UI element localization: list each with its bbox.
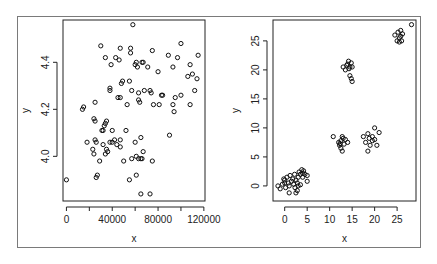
data-point xyxy=(130,88,134,92)
data-point xyxy=(128,51,132,55)
data-point xyxy=(93,100,97,104)
y-tick-label: 15 xyxy=(250,93,261,105)
data-point xyxy=(103,56,107,60)
plot-area xyxy=(273,20,416,201)
x-tick-label: 0 xyxy=(64,214,70,225)
x-tick-label: 40000 xyxy=(98,214,126,225)
data-point xyxy=(91,147,95,151)
data-point xyxy=(179,93,183,97)
scatter-panel-2: 0510152025x0510152025y xyxy=(230,20,416,244)
data-point xyxy=(175,56,179,60)
data-point xyxy=(64,178,68,182)
data-point xyxy=(117,58,121,62)
data-point xyxy=(110,128,114,132)
data-point xyxy=(346,140,350,144)
x-axis: 0510152025x xyxy=(282,207,403,244)
data-point xyxy=(196,53,200,57)
data-point xyxy=(190,72,194,76)
data-point xyxy=(118,145,122,149)
y-tick-label: 20 xyxy=(250,64,261,76)
y-axis: 0510152025y xyxy=(230,35,267,189)
x-tick-label: 5 xyxy=(304,214,310,225)
data-point xyxy=(142,88,146,92)
data-point xyxy=(136,91,140,95)
y-tick-label: 5 xyxy=(250,154,261,160)
data-point xyxy=(186,74,190,78)
x-axis-label: x xyxy=(342,233,347,244)
x-axis-label: x xyxy=(132,233,137,244)
data-point xyxy=(179,41,183,45)
data-points xyxy=(64,23,200,196)
data-point xyxy=(134,173,138,177)
x-tick-label: 20 xyxy=(369,214,381,225)
data-point xyxy=(150,48,154,52)
data-point xyxy=(157,103,161,107)
data-point xyxy=(366,132,370,136)
data-point xyxy=(193,88,197,92)
data-point xyxy=(409,23,413,27)
data-point xyxy=(173,95,177,99)
data-point xyxy=(361,135,365,139)
data-point xyxy=(131,23,135,27)
y-tick-label: 0 xyxy=(250,183,261,189)
data-point xyxy=(124,128,128,132)
y-tick-label: 25 xyxy=(250,35,261,47)
data-point xyxy=(188,63,192,67)
x-tick-label: 80000 xyxy=(144,214,172,225)
data-points xyxy=(276,23,414,195)
data-point xyxy=(171,103,175,107)
data-point xyxy=(375,143,379,147)
data-point xyxy=(122,159,126,163)
data-point xyxy=(101,142,105,146)
data-point xyxy=(133,140,137,144)
y-axis: 4.04.24.4y xyxy=(20,55,57,163)
data-point xyxy=(109,63,113,67)
data-point xyxy=(287,191,291,195)
x-axis: 04000080000120000x xyxy=(64,207,221,244)
data-point xyxy=(130,157,134,161)
data-point xyxy=(127,178,131,182)
data-point xyxy=(139,192,143,196)
y-tick-label: 10 xyxy=(250,122,261,134)
scatter-panel-1: 04000080000120000x4.04.24.4y xyxy=(20,20,221,244)
data-point xyxy=(98,159,102,163)
data-point xyxy=(118,46,122,50)
x-tick-label: 10 xyxy=(324,214,336,225)
data-point xyxy=(127,79,131,83)
x-tick-label: 15 xyxy=(347,214,359,225)
y-tick-label: 4.0 xyxy=(40,149,51,163)
data-point xyxy=(172,110,176,114)
x-tick-label: 0 xyxy=(282,214,288,225)
data-point xyxy=(373,126,377,130)
y-axis-label: y xyxy=(20,108,31,113)
x-tick-label: 25 xyxy=(392,214,404,225)
data-point xyxy=(331,135,335,139)
data-point xyxy=(99,44,103,48)
scatter-figure: 04000080000120000x4.04.24.4y0510152025x0… xyxy=(0,0,437,264)
data-point xyxy=(366,149,370,153)
data-point xyxy=(195,77,199,81)
data-point xyxy=(141,150,145,154)
data-point xyxy=(148,192,152,196)
x-tick-label: 120000 xyxy=(187,214,221,225)
data-point xyxy=(171,65,175,69)
data-point xyxy=(278,187,282,191)
data-point xyxy=(364,140,368,144)
y-tick-label: 4.4 xyxy=(40,55,51,69)
data-point xyxy=(377,130,381,134)
y-tick-label: 4.2 xyxy=(40,102,51,116)
data-point xyxy=(188,103,192,107)
data-point xyxy=(166,53,170,57)
data-point xyxy=(92,152,96,156)
data-point xyxy=(368,143,372,147)
data-point xyxy=(146,65,150,69)
data-point xyxy=(118,138,122,142)
data-point xyxy=(128,46,132,50)
y-axis-label: y xyxy=(230,108,241,113)
data-point xyxy=(151,103,155,107)
data-point xyxy=(85,140,89,144)
data-point xyxy=(125,103,129,107)
data-point xyxy=(150,159,154,163)
data-point xyxy=(305,179,309,183)
data-point xyxy=(167,133,171,137)
